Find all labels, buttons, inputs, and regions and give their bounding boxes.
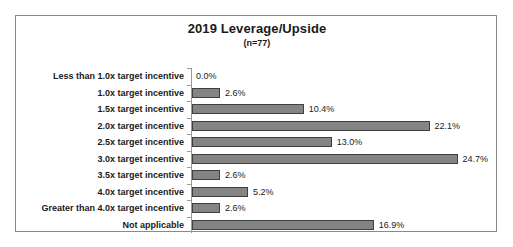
category-label: 2.0x target incentive <box>16 118 184 135</box>
bar-track: 2.6% <box>192 85 498 102</box>
bar-row: 3.0x target incentive 24.7% <box>16 151 498 168</box>
bar-value-label: 10.4% <box>309 101 335 118</box>
bar-track: 22.1% <box>192 118 498 135</box>
bar <box>192 187 248 197</box>
bar-row: 4.0x target incentive 5.2% <box>16 184 498 201</box>
axis-tick-icon <box>187 167 191 168</box>
chart-subtitle: (n=77) <box>16 37 498 49</box>
axis-tick-icon <box>187 151 191 152</box>
bar-value-label: 5.2% <box>253 184 274 201</box>
bar-value-label: 22.1% <box>435 118 461 135</box>
axis-tick-icon <box>187 68 191 69</box>
bar-track: 2.6% <box>192 200 498 217</box>
chart-screenshot: 2019 Leverage/Upside (n=77) Less than 1.… <box>0 0 513 247</box>
category-label: 1.0x target incentive <box>16 85 184 102</box>
category-label: Not applicable <box>16 217 184 234</box>
bar-row: 3.5x target incentive 2.6% <box>16 167 498 184</box>
axis-tick-icon <box>187 200 191 201</box>
bar-value-label: 2.6% <box>225 167 246 184</box>
category-label: 3.0x target incentive <box>16 151 184 168</box>
bar <box>192 88 220 98</box>
bar-track: 5.2% <box>192 184 498 201</box>
category-label: Greater than 4.0x target incentive <box>16 200 184 217</box>
bar-track: 10.4% <box>192 101 498 118</box>
plot-area: Less than 1.0x target incentive 0.0% 1.0… <box>16 68 498 233</box>
bar-value-label: 2.6% <box>225 200 246 217</box>
bar <box>192 121 430 131</box>
category-label: 4.0x target incentive <box>16 184 184 201</box>
bar-row: 1.5x target incentive 10.4% <box>16 101 498 118</box>
bar <box>192 220 374 230</box>
category-label: 3.5x target incentive <box>16 167 184 184</box>
bar <box>192 154 458 164</box>
bar-row: 2.0x target incentive 22.1% <box>16 118 498 135</box>
axis-tick-icon <box>187 184 191 185</box>
axis-tick-icon <box>187 134 191 135</box>
bar-row: Less than 1.0x target incentive 0.0% <box>16 68 498 85</box>
bar-track: 24.7% <box>192 151 498 168</box>
axis-tick-icon <box>187 85 191 86</box>
bar-track: 13.0% <box>192 134 498 151</box>
bar <box>192 170 220 180</box>
chart-title-block: 2019 Leverage/Upside (n=77) <box>16 21 498 49</box>
category-label: Less than 1.0x target incentive <box>16 68 184 85</box>
bar-row: Greater than 4.0x target incentive 2.6% <box>16 200 498 217</box>
bar <box>192 137 332 147</box>
bar-row: 1.0x target incentive 2.6% <box>16 85 498 102</box>
category-label: 1.5x target incentive <box>16 101 184 118</box>
bar-value-label: 2.6% <box>225 85 246 102</box>
bar-track: 0.0% <box>192 68 498 85</box>
page-title: 2019 Leverage/Upside <box>16 21 498 37</box>
bar <box>192 203 220 213</box>
axis-tick-icon <box>187 217 191 218</box>
axis-tick-icon <box>187 118 191 119</box>
bar-value-label: 24.7% <box>463 151 489 168</box>
bar-value-label: 16.9% <box>379 217 405 234</box>
bar-row: Not applicable 16.9% <box>16 217 498 234</box>
axis-tick-icon <box>187 101 191 102</box>
category-label: 2.5x target incentive <box>16 134 184 151</box>
bar-value-label: 13.0% <box>337 134 363 151</box>
bar-row: 2.5x target incentive 13.0% <box>16 134 498 151</box>
bar-track: 2.6% <box>192 167 498 184</box>
chart-frame: 2019 Leverage/Upside (n=77) Less than 1.… <box>15 15 497 232</box>
bar <box>192 104 304 114</box>
bar-track: 16.9% <box>192 217 498 234</box>
bar-value-label: 0.0% <box>196 68 217 85</box>
